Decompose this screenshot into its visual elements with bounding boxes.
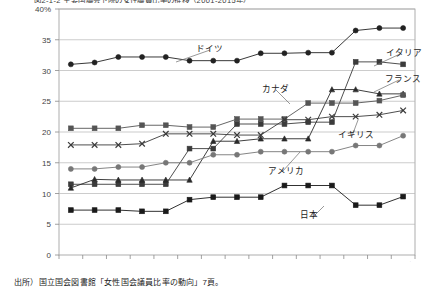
data-point-marker bbox=[235, 152, 240, 157]
data-point-marker bbox=[353, 143, 358, 148]
data-point-marker bbox=[187, 160, 192, 165]
series-label-1: イタリア bbox=[386, 48, 422, 58]
series-label-0: ドイツ bbox=[196, 44, 223, 54]
data-point-marker bbox=[353, 28, 358, 33]
source-note: 出所）国立国会図書館「女性国会議員比率の動向」7頁。 bbox=[14, 276, 224, 287]
series-label-6: 日本 bbox=[300, 209, 318, 220]
y-tick-label: 5 bbox=[47, 220, 52, 229]
data-point-marker bbox=[353, 203, 358, 208]
data-point-marker bbox=[306, 183, 311, 188]
data-point-marker bbox=[330, 120, 335, 125]
data-point-marker bbox=[306, 149, 311, 154]
data-point-marker bbox=[258, 117, 263, 122]
data-point-marker bbox=[306, 50, 311, 55]
data-point-marker bbox=[92, 182, 97, 187]
data-point-marker bbox=[211, 146, 216, 151]
data-point-marker bbox=[377, 143, 382, 148]
data-point-marker bbox=[140, 165, 145, 170]
data-point-marker bbox=[329, 149, 334, 154]
data-point-marker bbox=[282, 122, 287, 127]
data-point-marker bbox=[377, 203, 382, 208]
data-point-marker bbox=[282, 149, 287, 154]
data-point-marker bbox=[187, 146, 192, 151]
data-point-marker bbox=[235, 58, 240, 63]
data-point-marker bbox=[282, 183, 287, 188]
data-point-marker bbox=[401, 194, 406, 199]
data-point-marker bbox=[211, 58, 216, 63]
line-chart: 0510152025303540% 2001200220032004200520… bbox=[0, 0, 426, 262]
data-point-marker bbox=[92, 126, 97, 131]
data-point-marker bbox=[140, 123, 145, 128]
data-point-marker bbox=[258, 51, 263, 56]
y-tick-label: 20 bbox=[42, 128, 51, 137]
data-point-marker bbox=[163, 160, 168, 165]
data-point-marker bbox=[68, 126, 73, 131]
data-point-marker bbox=[330, 183, 335, 188]
y-axis-tick-labels: 0510152025303540% bbox=[35, 5, 52, 260]
data-point-marker bbox=[116, 126, 121, 131]
data-point-marker bbox=[92, 60, 97, 65]
data-point-marker bbox=[401, 133, 406, 138]
data-point-marker bbox=[140, 182, 145, 187]
data-point-marker bbox=[235, 117, 240, 122]
data-point-marker bbox=[140, 209, 145, 214]
data-point-marker bbox=[353, 101, 358, 106]
data-point-marker bbox=[377, 98, 382, 103]
data-point-marker bbox=[353, 59, 358, 64]
data-point-marker bbox=[211, 152, 216, 157]
y-tick-label: 35 bbox=[42, 36, 51, 45]
data-point-marker bbox=[211, 125, 216, 130]
data-point-marker bbox=[258, 195, 263, 200]
y-tick-label: 10 bbox=[42, 190, 51, 199]
data-point-marker bbox=[282, 51, 287, 56]
data-point-marker bbox=[92, 208, 97, 213]
series-label-5: アメリカ bbox=[268, 166, 304, 176]
x-tick-label: 2015年 bbox=[391, 261, 416, 262]
data-point-marker bbox=[306, 101, 311, 106]
data-point-marker bbox=[377, 26, 382, 31]
data-point-marker bbox=[187, 197, 192, 202]
series-label-3: カナダ bbox=[262, 83, 289, 94]
data-point-marker bbox=[140, 54, 145, 59]
y-tick-label: 25 bbox=[42, 97, 51, 106]
data-point-marker bbox=[187, 58, 192, 63]
y-tick-label: 40% bbox=[35, 5, 51, 14]
y-axis-ticks bbox=[55, 9, 59, 255]
data-point-marker bbox=[68, 208, 73, 213]
y-tick-label: 15 bbox=[42, 159, 51, 168]
data-point-marker bbox=[68, 62, 73, 67]
data-point-marker bbox=[235, 195, 240, 200]
data-point-marker bbox=[258, 149, 263, 154]
y-tick-label: 30 bbox=[42, 67, 51, 76]
data-point-marker bbox=[116, 54, 121, 59]
chart-container: 0510152025303540% 2001200220032004200520… bbox=[0, 0, 426, 262]
data-point-marker bbox=[116, 165, 121, 170]
data-point-marker bbox=[163, 54, 168, 59]
data-point-marker bbox=[163, 209, 168, 214]
data-point-marker bbox=[68, 166, 73, 171]
data-point-marker bbox=[163, 182, 168, 187]
data-point-marker bbox=[116, 208, 121, 213]
data-point-marker bbox=[330, 101, 335, 106]
series-label-2: フランス bbox=[385, 74, 421, 84]
data-point-marker bbox=[92, 166, 97, 171]
data-point-marker bbox=[401, 26, 406, 31]
data-point-marker bbox=[163, 123, 168, 128]
data-point-marker bbox=[235, 122, 240, 127]
data-point-marker bbox=[187, 125, 192, 130]
x-axis-tick-labels: 2001200220032004200520062007200820092010… bbox=[62, 261, 415, 262]
data-point-marker bbox=[401, 93, 406, 98]
series-label-4: イギリス bbox=[338, 130, 374, 140]
data-point-marker bbox=[329, 50, 334, 55]
x-axis-ticks bbox=[59, 255, 415, 259]
data-point-marker bbox=[116, 182, 121, 187]
data-point-marker bbox=[401, 62, 406, 67]
data-point-marker bbox=[211, 195, 216, 200]
data-point-marker bbox=[258, 122, 263, 127]
y-tick-label: 0 bbox=[47, 251, 52, 260]
